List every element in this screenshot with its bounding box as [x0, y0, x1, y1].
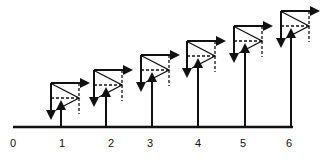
- triangle-diagonal: [95, 71, 122, 97]
- vector-figure-3: [141, 55, 178, 127]
- tick-label-6: 6: [286, 137, 292, 149]
- vector-figure-2: [94, 70, 131, 127]
- vector-step-diagram: 0123456: [0, 0, 325, 158]
- tick-label-0: 0: [10, 137, 16, 149]
- triangle-diagonal: [235, 27, 262, 53]
- triangle-diagonal: [188, 42, 215, 68]
- tick-label-2: 2: [108, 137, 114, 149]
- vector-figure-1: [51, 83, 88, 127]
- vector-figure-5: [234, 26, 271, 127]
- tick-label-4: 4: [195, 137, 201, 149]
- vector-figure-6: [281, 11, 318, 127]
- tick-label-5: 5: [240, 137, 246, 149]
- triangle-diagonal: [52, 84, 79, 110]
- tick-label-1: 1: [59, 137, 65, 149]
- figures-group: [51, 11, 318, 127]
- vector-figure-4: [187, 41, 224, 127]
- tick-label-3: 3: [147, 137, 153, 149]
- triangle-diagonal: [142, 56, 169, 82]
- axis-labels: 0123456: [10, 137, 292, 149]
- triangle-diagonal: [282, 12, 309, 38]
